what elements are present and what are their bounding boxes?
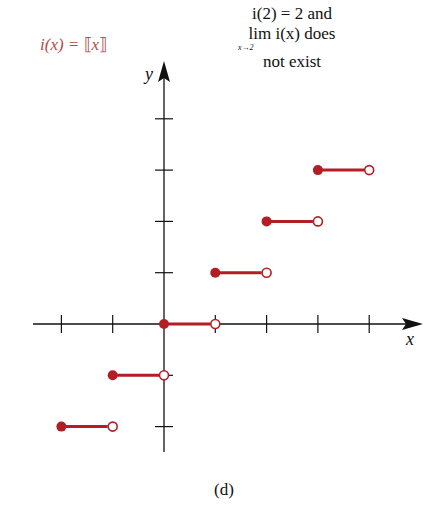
x-axis-label: x [405, 329, 414, 349]
closed-dot-icon [108, 370, 118, 380]
open-dot-icon [262, 268, 271, 277]
step-function-plot: xy [0, 0, 448, 525]
open-dot-icon [313, 217, 322, 226]
open-dot-icon [365, 166, 374, 175]
closed-dot-icon [262, 216, 272, 226]
open-dot-icon [211, 320, 220, 329]
closed-dot-icon [313, 165, 323, 175]
y-axis-label: y [143, 64, 153, 84]
figure-caption: (d) [0, 480, 448, 500]
closed-dot-icon [56, 422, 66, 432]
open-dot-icon [160, 371, 169, 380]
closed-dot-icon [210, 268, 220, 278]
closed-dot-icon [159, 319, 169, 329]
open-dot-icon [108, 422, 117, 431]
